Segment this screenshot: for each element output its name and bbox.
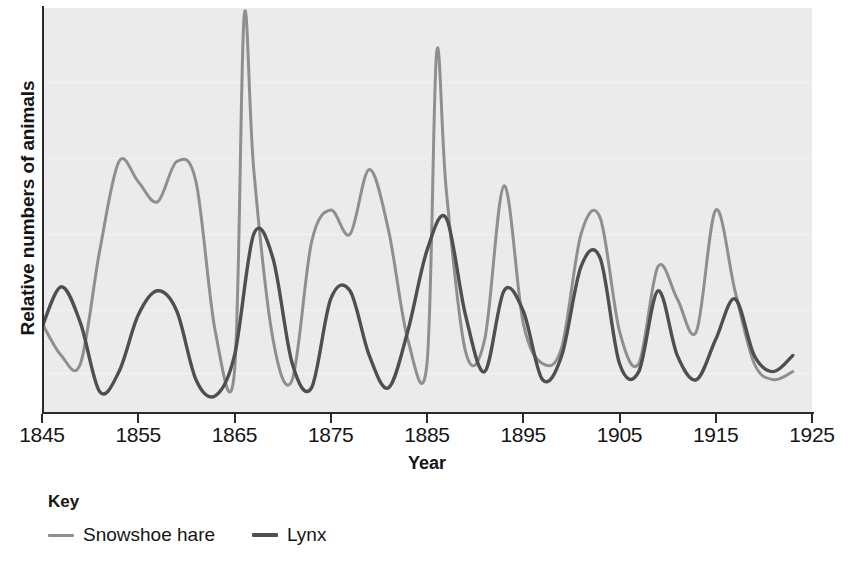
x-axis-tick [811, 414, 813, 423]
legend-swatch-icon [252, 533, 278, 537]
legend-label-snowshoe-hare: Snowshoe hare [83, 524, 215, 546]
x-axis-tick [137, 414, 139, 423]
x-axis-tick [619, 414, 621, 423]
x-axis-line [42, 412, 814, 414]
x-axis-tick-label: 1905 [575, 423, 665, 447]
x-axis-tick-label: 1925 [767, 423, 848, 447]
legend-item-lynx: Lynx [252, 524, 326, 546]
snowshoe-hare-line [42, 11, 793, 392]
x-axis-tick-label: 1845 [0, 423, 87, 447]
x-axis-tick [715, 414, 717, 423]
population-cycle-chart: Relative numbers of animals 184518551865… [0, 0, 848, 565]
x-axis-tick [426, 414, 428, 423]
x-axis-tick-label: 1895 [478, 423, 568, 447]
x-axis-tick [41, 414, 43, 423]
x-axis-tick-label: 1865 [190, 423, 280, 447]
x-axis-tick [330, 414, 332, 423]
x-axis-tick [522, 414, 524, 423]
plot-area [42, 8, 812, 412]
legend-title: Key [48, 492, 79, 512]
x-axis-tick-label: 1875 [286, 423, 376, 447]
legend-swatch-icon [48, 534, 74, 537]
x-axis-title: Year [42, 453, 812, 474]
y-axis-title: Relative numbers of animals [17, 0, 39, 418]
x-axis-tick-label: 1915 [671, 423, 761, 447]
series-lines [42, 8, 812, 412]
x-axis-tick-label: 1855 [93, 423, 183, 447]
x-axis-tick-label: 1885 [382, 423, 472, 447]
y-axis-line [42, 6, 44, 414]
x-axis-tick [234, 414, 236, 423]
legend-label-lynx: Lynx [287, 524, 326, 546]
legend-item-snowshoe-hare: Snowshoe hare [48, 524, 215, 546]
